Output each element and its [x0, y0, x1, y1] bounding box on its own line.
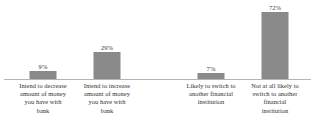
bar-group-1: 29% [72, 0, 142, 80]
category-label-line: switch to another [240, 90, 310, 98]
category-label-line: Likely to switch to [176, 82, 246, 90]
category-label-line: amount of money [8, 90, 78, 98]
category-label-2: Likely to switch toanother financialinst… [176, 82, 246, 107]
category-label-line: Not at all likely to [240, 82, 310, 90]
bar-value-label-2: 7% [207, 65, 216, 72]
bar-group-0: 9% [8, 0, 78, 80]
category-label-line: institution [176, 98, 246, 106]
category-label-1: Intend to increaseamount of moneyyou hav… [72, 82, 142, 115]
bar-chart: 9% 29% 7% 72% Intend to decreaseamount o… [0, 0, 315, 129]
category-label-line: institution [240, 107, 310, 115]
bar-value-label-1: 29% [101, 44, 113, 51]
category-label-line: another financial [176, 90, 246, 98]
bar-3 [262, 12, 289, 80]
category-label-line: Intend to increase [72, 82, 142, 90]
bar-1 [94, 52, 121, 80]
category-label-line: Intend to decrease [8, 82, 78, 90]
x-axis-line [4, 79, 311, 80]
plot-area: 9% 29% 7% 72% [0, 0, 315, 80]
category-label-line: bank [72, 107, 142, 115]
bar-group-2: 7% [176, 0, 246, 80]
category-label-line: bank [8, 107, 78, 115]
category-label-line: you have with [8, 98, 78, 106]
category-label-line: financial [240, 98, 310, 106]
bar-value-label-3: 72% [269, 4, 281, 11]
category-labels: Intend to decreaseamount of moneyyou hav… [0, 82, 315, 129]
category-label-0: Intend to decreaseamount of moneyyou hav… [8, 82, 78, 115]
bar-value-label-0: 9% [39, 63, 48, 70]
category-label-line: you have with [72, 98, 142, 106]
category-label-line: amount of money [72, 90, 142, 98]
category-label-3: Not at all likely toswitch to anotherfin… [240, 82, 310, 115]
bar-group-3: 72% [240, 0, 310, 80]
